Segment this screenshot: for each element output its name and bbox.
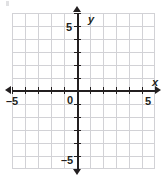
y-axis-tick — [74, 130, 81, 131]
x-axis-tick — [64, 87, 65, 94]
y-axis-tick — [74, 156, 81, 157]
gridline-horizontal — [12, 168, 155, 169]
gridline-horizontal — [12, 156, 155, 157]
x-axis-tick — [116, 87, 117, 94]
gridline-horizontal — [12, 104, 155, 105]
gridline-horizontal — [12, 117, 155, 118]
y-axis-tick — [74, 39, 81, 40]
gridline-horizontal — [12, 13, 155, 14]
y-axis-up-arrowhead — [73, 6, 81, 12]
y-axis-label: y — [88, 14, 94, 25]
coordinate-plane-figure: y x 5 –5 –5 5 0 — [0, 0, 167, 180]
x-axis-tick — [129, 87, 130, 94]
x-tick-label-positive-five: 5 — [145, 96, 151, 107]
scan-artifact-speck — [6, 1, 9, 6]
y-axis-tick — [74, 104, 81, 105]
origin-label: 0 — [67, 95, 73, 106]
x-axis-tick — [12, 87, 13, 94]
y-tick-label-negative-five: –5 — [61, 155, 73, 166]
x-axis-line — [12, 90, 155, 92]
x-axis-tick — [142, 87, 143, 94]
y-axis-line — [77, 13, 79, 169]
x-axis-tick — [90, 87, 91, 94]
x-axis-tick — [25, 87, 26, 94]
gridline-horizontal — [12, 65, 155, 66]
y-tick-label-positive-five: 5 — [66, 22, 72, 33]
x-axis-tick — [103, 87, 104, 94]
x-axis-left-arrowhead — [5, 86, 11, 94]
x-axis-label: x — [152, 77, 158, 88]
gridline-horizontal — [12, 26, 155, 27]
gridline-horizontal — [12, 143, 155, 144]
y-axis-tick — [74, 52, 81, 53]
y-axis-down-arrowhead — [73, 169, 81, 175]
y-axis-tick — [74, 143, 81, 144]
gridline-horizontal — [12, 78, 155, 79]
gridline-horizontal — [12, 52, 155, 53]
x-axis-tick — [38, 87, 39, 94]
plot-area — [12, 13, 155, 169]
y-axis-tick — [74, 78, 81, 79]
gridline-horizontal — [12, 39, 155, 40]
y-axis-tick — [74, 26, 81, 27]
y-axis-tick — [74, 65, 81, 66]
gridline-horizontal — [12, 130, 155, 131]
y-axis-tick — [74, 117, 81, 118]
x-tick-label-negative-five: –5 — [6, 96, 18, 107]
x-axis-tick — [51, 87, 52, 94]
y-axis-tick — [74, 13, 81, 14]
